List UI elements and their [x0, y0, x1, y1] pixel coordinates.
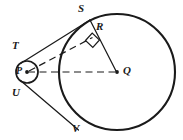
diagram-canvas	[0, 0, 183, 140]
point-label-T: T	[12, 40, 19, 51]
dashed-segment-P-to-R	[29, 38, 93, 72]
point-label-Q: Q	[123, 65, 131, 76]
point-label-P: P	[16, 65, 22, 76]
center-point-P	[25, 70, 29, 74]
point-label-S: S	[78, 3, 84, 14]
geometry-diagram: S R T P U Q V	[0, 0, 183, 140]
point-label-R: R	[96, 21, 103, 32]
point-label-U: U	[12, 87, 20, 98]
point-label-V: V	[72, 123, 79, 134]
center-point-Q	[115, 70, 119, 74]
